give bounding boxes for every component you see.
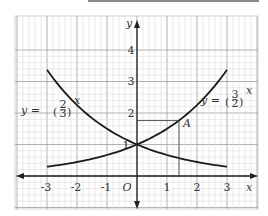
x-tick-label: 1 (164, 181, 171, 194)
x-tick-label: 2 (194, 181, 201, 194)
x-tick-label: -2 (71, 181, 82, 194)
paren-close: ) (67, 106, 71, 119)
x-tick-label: 3 (224, 181, 231, 194)
exponential-functions-chart: -3 -2 -1 O 1 2 3 x 1 2 3 4 y A y = ( 2 3… (0, 0, 268, 216)
paren-open: ( (53, 106, 57, 119)
paren-open: ( (225, 96, 229, 109)
x-axis-label: x (246, 181, 253, 194)
y-tick-label: 4 (128, 44, 135, 57)
origin-label: O (122, 181, 131, 194)
point-a-label: A (182, 117, 191, 130)
equation-left-exponent: x (74, 94, 81, 107)
equation-left-denominator: 3 (60, 107, 67, 120)
y-tick-label: 2 (128, 107, 135, 120)
equation-left-base: y = (20, 104, 40, 117)
x-tick-label: -3 (41, 181, 52, 194)
equation-right-base: y = (200, 94, 220, 107)
y-axis-label: y (125, 17, 133, 30)
equation-right-denominator: 2 (232, 97, 239, 110)
equation-right-exponent: x (246, 84, 253, 97)
y-axis-up-arrow-icon (134, 20, 140, 28)
paren-close: ) (239, 96, 243, 109)
y-tick-label: 3 (128, 75, 135, 88)
x-tick-label: -1 (101, 181, 112, 194)
